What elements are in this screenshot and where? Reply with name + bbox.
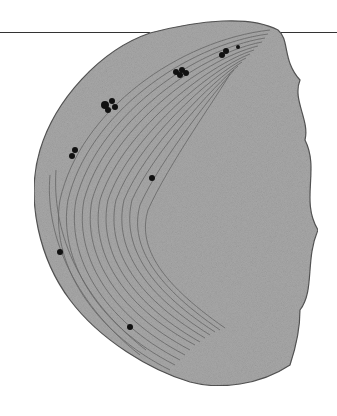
granule	[177, 72, 183, 78]
organelle-body	[34, 21, 318, 386]
granule	[223, 48, 229, 54]
granule	[109, 98, 115, 104]
granule	[149, 175, 155, 181]
granule	[105, 107, 111, 113]
granule	[69, 153, 75, 159]
granule	[183, 70, 189, 76]
granule	[127, 324, 133, 330]
granule	[57, 249, 63, 255]
granule	[236, 45, 240, 49]
granule	[72, 147, 78, 153]
organelle-illustration	[0, 0, 337, 416]
granule	[112, 104, 118, 110]
